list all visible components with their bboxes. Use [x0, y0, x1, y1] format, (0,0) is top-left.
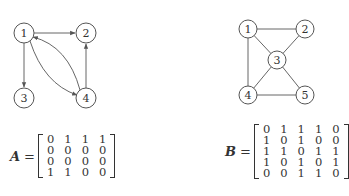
equals-sign: =: [240, 144, 251, 159]
matrix-a: A = 0111 0000 0000 1100: [10, 134, 115, 178]
equals-sign: =: [24, 149, 35, 164]
matrix-row: 00110: [258, 168, 345, 179]
undirected-graph-b: 1 2 3 4 5: [239, 20, 314, 104]
svg-text:5: 5: [302, 89, 309, 102]
svg-text:2: 2: [83, 27, 90, 40]
svg-text:4: 4: [83, 92, 90, 105]
svg-text:1: 1: [21, 27, 28, 40]
svg-text:2: 2: [302, 23, 309, 36]
node-a-3: 3: [14, 88, 34, 108]
matrix-b-label: B: [225, 144, 236, 159]
node-a-2: 2: [76, 23, 96, 43]
node-b-1: 1: [239, 20, 257, 38]
svg-text:1: 1: [245, 23, 252, 36]
node-b-3: 3: [268, 51, 286, 69]
svg-text:3: 3: [274, 54, 281, 67]
node-a-1: 1: [14, 23, 34, 43]
directed-graph-a: 1 2 3 4: [14, 23, 96, 108]
svg-text:3: 3: [21, 92, 28, 105]
svg-text:4: 4: [245, 89, 252, 102]
matrix-b-bracket: 01110 10100 11011 10101 00110: [254, 124, 349, 179]
matrix-row: 1100: [42, 167, 111, 178]
matrix-a-label: A: [10, 149, 20, 164]
node-a-4: 4: [76, 88, 96, 108]
node-b-4: 4: [239, 86, 257, 104]
matrix-b-table: 01110 10100 11011 10101 00110: [258, 124, 345, 179]
edge-1-4: [30, 41, 77, 95]
matrix-a-table: 0111 0000 0000 1100: [42, 134, 111, 178]
node-b-2: 2: [296, 20, 314, 38]
node-b-5: 5: [296, 86, 314, 104]
matrix-b: B = 01110 10100 11011 10101 00110: [225, 124, 349, 179]
matrix-a-bracket: 0111 0000 0000 1100: [38, 134, 115, 178]
